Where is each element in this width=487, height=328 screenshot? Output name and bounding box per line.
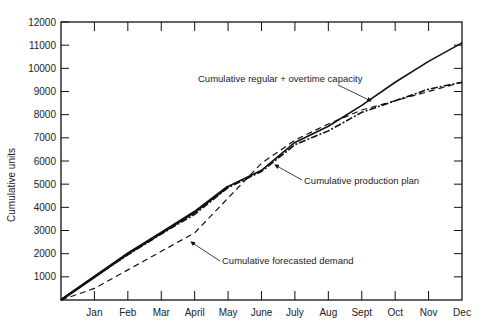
- y-tick-label: 7000: [34, 132, 57, 143]
- annotation-arrow-icon: [338, 85, 371, 101]
- annotation-arrow-icon: [275, 165, 302, 180]
- x-tick-label: Feb: [119, 307, 137, 318]
- y-tick-label: 2000: [34, 248, 57, 259]
- x-tick-label: June: [251, 307, 273, 318]
- x-tick-label: July: [286, 307, 304, 318]
- y-tick-label: 6000: [34, 156, 57, 167]
- x-tick-label: Mar: [153, 307, 171, 318]
- overlap-segment: [61, 186, 228, 300]
- y-axis-title: Cumulative units: [6, 148, 17, 222]
- x-tick-label: May: [219, 307, 238, 318]
- x-tick-label: Oct: [387, 307, 403, 318]
- x-tick-label: Dec: [453, 307, 471, 318]
- y-tick-label: 8000: [34, 109, 57, 120]
- y-tick-label: 10000: [28, 63, 56, 74]
- x-tick-label: Jan: [86, 307, 102, 318]
- y-tick-label: 5000: [34, 179, 57, 190]
- cumulative-units-chart: 1000200030004000500060007000800090001000…: [0, 0, 487, 328]
- x-tick-label: Sept: [351, 307, 372, 318]
- annotation-label: Cumulative regular + overtime capacity: [198, 73, 363, 84]
- y-tick-label: 12000: [28, 17, 56, 28]
- x-axis: JanFebMarAprilMayJuneJulyAugSeptOctNovDe…: [86, 22, 471, 318]
- x-tick-label: April: [185, 307, 205, 318]
- annotation-label: Cumulative forecasted demand: [222, 255, 354, 266]
- series-dash-dot-line: [61, 82, 462, 300]
- y-axis: 1000200030004000500060007000800090001000…: [28, 17, 462, 283]
- y-tick-label: 11000: [29, 40, 57, 51]
- annotation-layer: Cumulative regular + overtime capacityCu…: [191, 73, 419, 266]
- y-tick-label: 9000: [34, 86, 57, 97]
- annotation-label: Cumulative production plan: [304, 175, 419, 186]
- y-tick-label: 3000: [34, 225, 57, 236]
- series-dashed-line: [61, 82, 462, 300]
- x-tick-label: Aug: [319, 307, 337, 318]
- x-tick-label: Nov: [420, 307, 438, 318]
- y-tick-label: 1000: [34, 271, 57, 282]
- y-tick-label: 4000: [34, 202, 57, 213]
- annotation-arrow-icon: [191, 242, 220, 261]
